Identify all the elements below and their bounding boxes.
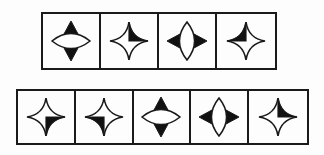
star-figure-icon [137,93,185,141]
star-figure-icon [163,17,211,65]
question-row-cell-2 [101,14,159,68]
question-row [41,12,277,70]
options-row-cell-2[interactable] [76,91,134,143]
star-figure-icon [47,17,95,65]
star-figure-icon [80,93,128,141]
star-figure-icon [22,93,70,141]
star-figure-icon [195,93,243,141]
options-row-cell-5[interactable] [249,91,307,143]
options-row-cell-3[interactable] [134,91,192,143]
star-figure-icon [254,93,302,141]
star-figure-icon [105,17,153,65]
question-row-cell-4 [217,14,275,68]
options-row-cell-1[interactable] [18,91,76,143]
options-row [16,89,309,145]
star-figure-icon [222,17,270,65]
options-row-cell-4[interactable] [191,91,249,143]
question-row-cell-1 [43,14,101,68]
question-row-cell-3 [159,14,217,68]
